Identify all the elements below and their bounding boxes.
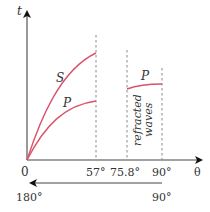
- refracted-p-label: P: [140, 69, 150, 83]
- secondary-start-label: 90°: [152, 191, 172, 204]
- tick-label-57: 57°: [86, 166, 106, 179]
- origin-label: 0: [21, 165, 29, 179]
- p-curve-label: P: [62, 96, 72, 110]
- travel-time-diagram: t θ 0 57° 75.8° 90° S P P refracted wave…: [0, 0, 210, 212]
- refracted-p-curve: [127, 84, 162, 89]
- secondary-end-label: 180°: [16, 191, 43, 204]
- s-wave-curve: [27, 53, 96, 160]
- tick-label-75-8: 75.8°: [110, 166, 140, 179]
- tick-label-90: 90°: [152, 166, 172, 179]
- annotation-line2: waves: [142, 102, 155, 137]
- x-axis-label: θ: [194, 166, 201, 179]
- s-curve-label: S: [56, 71, 64, 85]
- refracted-waves-annotation: refracted waves: [131, 94, 155, 146]
- y-axis-label: t: [17, 4, 22, 18]
